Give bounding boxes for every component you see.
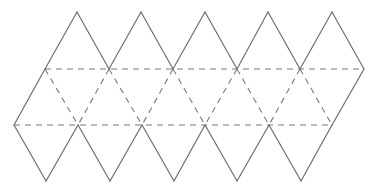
cut-edge bbox=[300, 12, 332, 69]
fold-line bbox=[142, 69, 173, 125]
cut-lines bbox=[14, 12, 364, 181]
fold-line bbox=[45, 69, 78, 125]
cut-edge bbox=[174, 125, 205, 181]
cut-edge bbox=[110, 125, 142, 181]
fold-line bbox=[237, 69, 269, 125]
fold-line bbox=[109, 69, 142, 125]
fold-line bbox=[78, 69, 109, 125]
cut-edge bbox=[268, 12, 300, 69]
cut-edge bbox=[237, 12, 268, 69]
cut-edge bbox=[332, 12, 364, 69]
fold-line bbox=[269, 69, 300, 125]
cut-edge bbox=[237, 125, 269, 181]
cut-edge bbox=[78, 125, 110, 181]
cut-edge bbox=[14, 69, 45, 125]
cut-edge bbox=[77, 12, 109, 69]
cut-edge bbox=[109, 12, 141, 69]
cut-edge bbox=[332, 69, 364, 125]
cut-edge bbox=[14, 125, 46, 181]
cut-edge bbox=[205, 125, 237, 181]
cut-edge bbox=[141, 12, 173, 69]
cut-edge bbox=[173, 12, 205, 69]
fold-line bbox=[300, 69, 332, 125]
cut-edge bbox=[205, 12, 237, 69]
fold-lines bbox=[14, 69, 364, 125]
icosahedron-net-diagram bbox=[0, 0, 375, 192]
cut-edge bbox=[301, 125, 332, 181]
cut-edge bbox=[269, 125, 301, 181]
fold-line bbox=[173, 69, 205, 125]
cut-edge bbox=[142, 125, 174, 181]
cut-edge bbox=[46, 125, 78, 181]
fold-line bbox=[205, 69, 237, 125]
cut-edge bbox=[45, 12, 77, 69]
